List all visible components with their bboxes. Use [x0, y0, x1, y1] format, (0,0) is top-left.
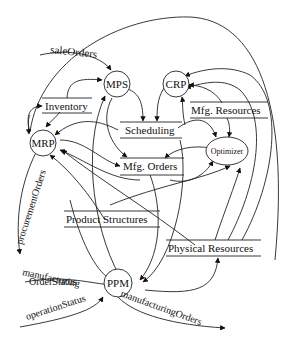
store-scheduling-label: Scheduling	[125, 124, 175, 136]
store-physical-resources[interactable]: Physical Resources	[166, 240, 261, 256]
flow-procurementorders-label: procurementOrders	[13, 168, 48, 245]
edge-scheduling-optimizer	[178, 120, 216, 137]
edge-ppm-mps	[92, 96, 125, 285]
store-mfg-orders-label: Mfg. Orders	[123, 160, 177, 172]
edge-mrp-mfgorders	[60, 140, 120, 166]
edge-mps-mfgorders	[107, 98, 127, 157]
edge-optimizer-mfgorders	[165, 147, 210, 158]
process-optimizer-label: Optimizer	[211, 147, 244, 156]
store-mfg-resources-label: Mfg. Resources	[191, 104, 261, 116]
process-mrp-label: MRP	[31, 137, 54, 149]
store-product-structures[interactable]: Product Structures	[64, 211, 160, 227]
flow-operationstatus-label: operationStatus	[24, 292, 87, 322]
edge-physical-optimizer	[215, 168, 240, 240]
store-product-structures-label: Product Structures	[66, 213, 148, 225]
flow-saleorders-label: saleOrders	[50, 43, 98, 60]
store-inventory-label: Inventory	[45, 100, 88, 112]
edge-mfgorders-ppm	[140, 175, 158, 280]
process-ppm-label: PPM	[107, 277, 129, 289]
edge-mfgresources-crp	[189, 85, 222, 103]
edge-ppm-physical	[145, 258, 218, 292]
edge-mfgresources-optimizer	[227, 118, 230, 137]
edge-inventory-mps	[67, 79, 102, 98]
process-crp-label: CRP	[166, 78, 187, 90]
store-physical-resources-label: Physical Resources	[168, 242, 253, 254]
data-flow-diagram: MPS CRP MRP Optimizer PPM Inventory Mfg.…	[0, 0, 296, 342]
store-mfg-orders[interactable]: Mfg. Orders	[120, 158, 184, 175]
edge-scheduling-mrp	[55, 122, 118, 135]
flow-mfgorderstatus-label-line2: OrderStatus	[29, 276, 77, 287]
process-mps-label: MPS	[106, 78, 128, 90]
store-scheduling[interactable]: Scheduling	[120, 122, 182, 138]
process-mrp[interactable]: MRP	[30, 130, 56, 156]
edge-inventory-mrp	[46, 112, 60, 127]
store-inventory[interactable]: Inventory	[42, 98, 92, 113]
edge-mps-scheduling	[125, 88, 143, 121]
edge-scheduling-crp	[182, 97, 185, 125]
store-mfg-resources[interactable]: Mfg. Resources	[190, 102, 268, 118]
process-crp[interactable]: CRP	[163, 71, 189, 97]
process-mps[interactable]: MPS	[104, 71, 130, 97]
process-optimizer[interactable]: Optimizer	[206, 137, 248, 165]
